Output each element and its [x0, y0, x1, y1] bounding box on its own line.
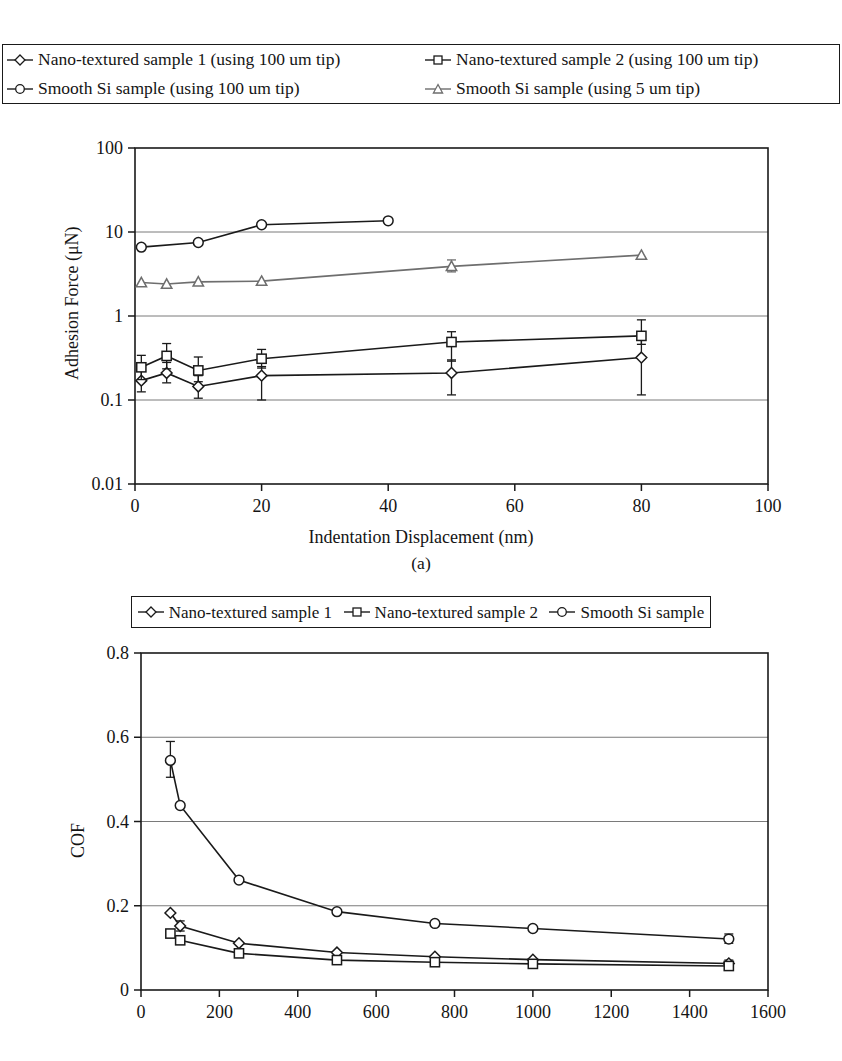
data-point-marker [234, 949, 243, 958]
data-series [136, 216, 647, 400]
x-tick-label: 1200 [593, 1002, 629, 1022]
data-point-marker [257, 354, 266, 363]
y-tick-label: 0.4 [107, 812, 130, 832]
y-tick-label: 1 [114, 306, 123, 326]
data-point-marker [636, 352, 647, 363]
legend-label: Smooth Si sample (using 100 um tip) [38, 80, 300, 98]
y-tick-label: 0.6 [107, 727, 130, 747]
data-point-marker [430, 919, 440, 929]
legend-label: Nano-textured sample 1 [169, 604, 332, 621]
x-tick-label: 200 [206, 1002, 233, 1022]
data-point-marker [175, 801, 185, 811]
circle-marker-icon [549, 604, 575, 620]
triangle-marker-icon [425, 81, 451, 97]
legend-label: Smooth Si sample (using 5 um tip) [456, 80, 700, 98]
data-point-marker [383, 216, 393, 226]
data-point-marker [162, 351, 171, 360]
data-point-marker [194, 366, 203, 375]
y-axis-label-adhesion: Adhesion Force (μN) [62, 226, 83, 380]
x-tick-label: 1400 [672, 1002, 708, 1022]
data-point-marker [528, 959, 537, 968]
legend-item-smooth-5um: Smooth Si sample (using 5 um tip) [421, 80, 839, 98]
x-tick-label: 1000 [515, 1002, 551, 1022]
cof-plot-svg: 00.20.40.60.8020040060080010001200140016… [0, 638, 842, 1061]
data-point-marker [256, 370, 267, 381]
data-point-marker [447, 337, 456, 346]
figure-root: Nano-textured sample 1 (using 100 um tip… [0, 0, 842, 1061]
x-tick-label: 1600 [750, 1002, 786, 1022]
series-circle [136, 216, 393, 252]
data-point-marker [234, 938, 245, 949]
x-tick-label: 40 [379, 496, 397, 516]
y-tick-label: 0.01 [92, 474, 124, 494]
square-marker-icon [344, 604, 370, 620]
tick-labels: 0.010.1110100020406080100 [92, 138, 782, 516]
data-point-marker [332, 907, 342, 917]
data-point-marker [137, 363, 146, 372]
series-diamond [165, 908, 734, 969]
data-point-marker [136, 242, 146, 252]
data-point-marker [234, 875, 244, 885]
data-point-marker [637, 331, 646, 340]
y-tick-label: 100 [96, 138, 123, 158]
legend-adhesion: Nano-textured sample 1 (using 100 um tip… [2, 44, 840, 104]
series-line [141, 336, 641, 371]
y-tick-label: 0 [120, 980, 129, 1000]
data-point-marker [176, 936, 185, 945]
y-tick-label: 10 [105, 222, 123, 242]
x-tick-label: 100 [755, 496, 782, 516]
data-point-marker [528, 924, 538, 934]
chart-cof: 00.20.40.60.8020040060080010001200140016… [0, 638, 842, 1061]
axes [134, 653, 768, 997]
adhesion-plot-svg: 0.010.1110100020406080100 [0, 120, 842, 540]
legend-label: Nano-textured sample 1 (using 100 um tip… [38, 51, 340, 69]
series-triangle [136, 250, 646, 288]
circle-marker-icon [7, 81, 33, 97]
series-square [137, 320, 646, 382]
legend-item-smooth-100um: Smooth Si sample (using 100 um tip) [3, 80, 421, 98]
x-axis-label-adhesion: Indentation Displacement (nm) [0, 527, 842, 548]
legend-cof: Nano-textured sample 1 Nano-textured sam… [131, 596, 711, 628]
legend-label: Smooth Si sample [580, 604, 704, 621]
x-tick-label: 0 [131, 496, 140, 516]
square-marker-icon [425, 52, 451, 68]
series-line [141, 255, 641, 284]
y-tick-label: 0.2 [107, 896, 130, 916]
data-point-marker [165, 756, 175, 766]
y-tick-label: 0.1 [101, 390, 124, 410]
data-point-marker [724, 961, 733, 970]
x-tick-label: 800 [441, 1002, 468, 1022]
diamond-marker-icon [7, 52, 33, 68]
data-point-marker [257, 220, 267, 230]
x-tick-label: 60 [506, 496, 524, 516]
data-point-marker [446, 368, 457, 379]
y-axis-label-cof: COF [68, 823, 89, 858]
series-line [170, 760, 728, 939]
diamond-marker-icon [138, 604, 164, 620]
series-line [141, 358, 641, 387]
data-point-marker [166, 929, 175, 938]
legend-label: Nano-textured sample 2 (using 100 um tip… [456, 51, 758, 69]
series-circle [165, 741, 733, 943]
data-point-marker [193, 381, 204, 392]
legend-item-smooth: Smooth Si sample [549, 604, 704, 621]
axes [128, 148, 768, 491]
legend-item-nano1: Nano-textured sample 1 [138, 604, 332, 621]
legend-item-nano2-100um: Nano-textured sample 2 (using 100 um tip… [421, 51, 839, 69]
data-point-marker [193, 238, 203, 248]
legend-item-nano1-100um: Nano-textured sample 1 (using 100 um tip… [3, 51, 421, 69]
subfigure-caption-a: (a) [0, 553, 842, 574]
series-line [170, 913, 728, 964]
legend-label: Nano-textured sample 2 [375, 604, 538, 621]
x-tick-label: 20 [253, 496, 271, 516]
y-tick-label: 0.8 [107, 643, 130, 663]
data-point-marker [724, 934, 734, 944]
data-series [165, 741, 734, 970]
x-tick-label: 400 [284, 1002, 311, 1022]
data-point-marker [430, 958, 439, 967]
chart-adhesion-force: 0.010.1110100020406080100 [0, 120, 842, 540]
x-tick-label: 0 [137, 1002, 146, 1022]
legend-item-nano2: Nano-textured sample 2 [344, 604, 538, 621]
x-tick-label: 80 [632, 496, 650, 516]
x-tick-label: 600 [363, 1002, 390, 1022]
